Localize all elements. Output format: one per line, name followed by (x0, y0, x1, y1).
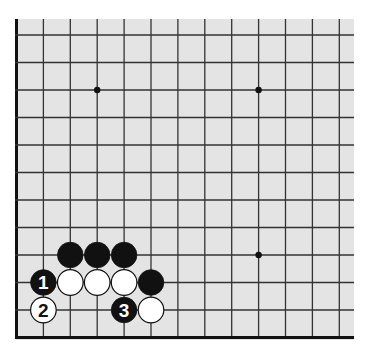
black-stone (111, 242, 137, 268)
white-stone (58, 270, 84, 296)
stone-disc (58, 270, 84, 296)
black-stone (84, 242, 110, 268)
white-stone (111, 270, 137, 296)
go-board: 123 (0, 0, 368, 353)
star-point (94, 87, 100, 93)
stone-disc (84, 270, 110, 296)
white-stone (138, 297, 164, 323)
white-stone (84, 270, 110, 296)
move-number-label: 1 (38, 272, 49, 293)
black-stone-move-3: 3 (111, 297, 137, 323)
move-number-label: 3 (119, 300, 130, 321)
black-stone (138, 270, 164, 296)
stone-disc (138, 297, 164, 323)
black-stone-move-1: 1 (31, 270, 57, 296)
stone-disc (84, 242, 110, 268)
black-stone (58, 242, 84, 268)
stone-disc (58, 242, 84, 268)
star-point (255, 87, 261, 93)
stone-disc (138, 270, 164, 296)
stone-disc (111, 242, 137, 268)
move-number-label: 2 (38, 300, 49, 321)
stone-disc (111, 270, 137, 296)
star-point (255, 252, 261, 258)
white-stone-move-2: 2 (31, 297, 57, 323)
